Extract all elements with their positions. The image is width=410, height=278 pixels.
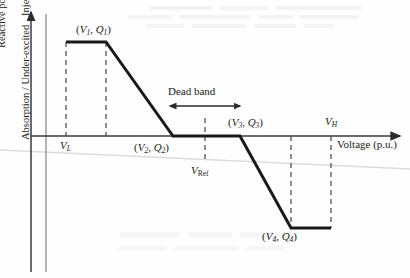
point-label-v1q1: (V1, Q1) [76,24,111,36]
vh-sub: H [332,120,337,129]
p2-v-sub: 2 [144,146,148,155]
p4-v-sub: 4 [272,235,276,244]
point-label-v3q3: (V3, Q3) [228,117,263,129]
x-axis-label: Voltage (p.u.) [337,139,397,151]
vl-symbol: V [60,139,67,151]
p4-q: Q [282,230,290,242]
p3-q-sub: 3 [256,121,260,130]
volt-var-curve-figure: Reactive power (% of stated capability) … [0,0,410,278]
tick-label-v-high: VH [325,116,337,128]
tick-label-v-low: VL [60,140,71,152]
tick-label-v-ref: VRef [191,165,209,177]
y-axis-inner-lower-label: Absorption / Under-excited [20,6,31,140]
p2-q: Q [154,141,162,153]
p1-q: Q [96,23,104,35]
p1-q-sub: 1 [104,28,108,37]
dead-band-label: Dead band [168,86,215,98]
vref-symbol: V [191,164,198,176]
p1-v-sub: 1 [86,28,90,37]
p4-q-sub: 4 [290,235,294,244]
vref-sub: Ref [198,169,209,178]
vh-symbol: V [325,115,332,127]
p3-q: Q [248,116,256,128]
point-label-v2q2: (V2, Q2) [134,142,169,154]
point-label-v4q4: (V4, Q4) [262,231,297,243]
vl-sub: L [67,144,71,153]
scan-artifact-top [128,6,362,28]
p2-q-sub: 2 [162,146,166,155]
y-axis-outer-label: Reactive power (% of stated capability) [0,0,7,48]
p3-v-sub: 3 [238,121,242,130]
